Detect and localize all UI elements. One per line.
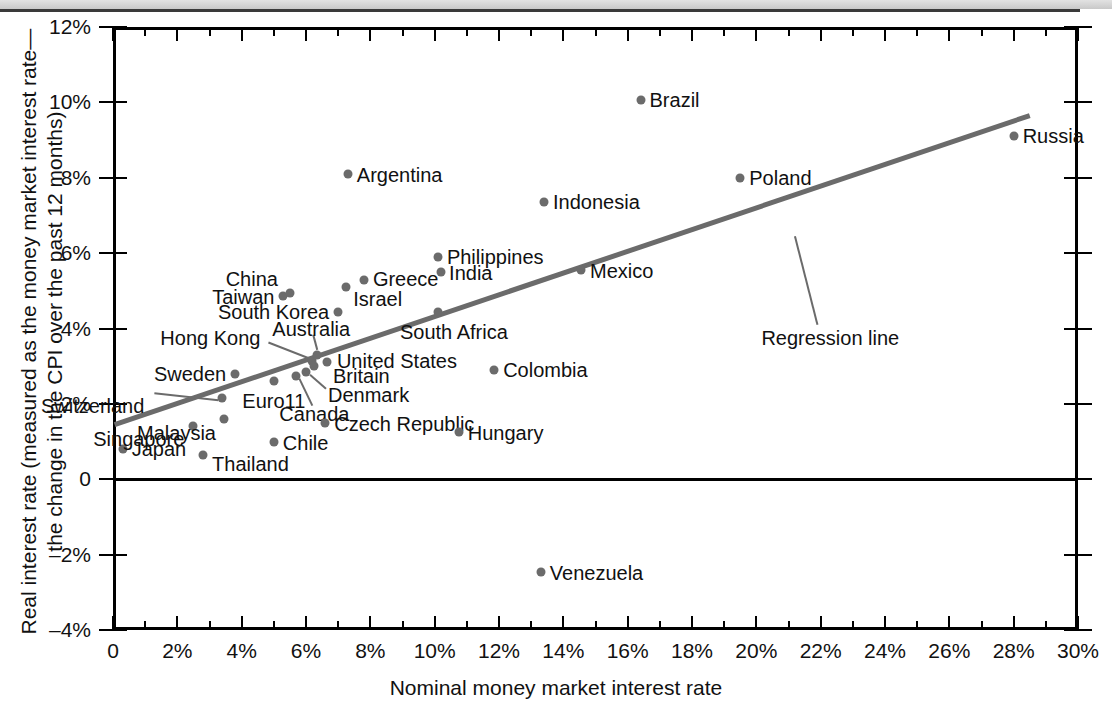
x-tick: [530, 27, 532, 36]
x-tick: [884, 27, 886, 41]
y-tick: [99, 252, 127, 254]
x-tick: [337, 27, 339, 36]
x-tick: [466, 27, 468, 36]
x-tick-label: 2%: [162, 639, 192, 663]
x-tick: [498, 27, 500, 41]
data-point[interactable]: [321, 418, 330, 427]
x-tick: [627, 27, 629, 41]
data-point[interactable]: [736, 173, 745, 182]
point-label: Chile: [283, 431, 329, 454]
data-point[interactable]: [313, 350, 322, 359]
data-point[interactable]: [219, 414, 228, 423]
x-tick: [852, 621, 854, 630]
x-tick: [369, 616, 371, 630]
data-point[interactable]: [433, 307, 442, 316]
data-point[interactable]: [536, 567, 545, 576]
data-point[interactable]: [1009, 132, 1018, 141]
x-tick: [916, 27, 918, 36]
x-tick: [562, 616, 564, 630]
data-point[interactable]: [285, 288, 294, 297]
data-point[interactable]: [342, 283, 351, 292]
x-tick: [369, 27, 371, 41]
x-tick-label: 18%: [671, 639, 713, 663]
x-tick-label: 14%: [542, 639, 584, 663]
data-point[interactable]: [292, 371, 301, 380]
y-axis-title: Real interest rate (measured as the mone…: [16, 22, 67, 642]
data-point[interactable]: [490, 365, 499, 374]
x-tick-label: 8%: [355, 639, 385, 663]
point-label: Israel: [353, 288, 402, 311]
x-tick: [1077, 616, 1079, 630]
y-tick: [99, 177, 127, 179]
x-tick: [144, 621, 146, 630]
x-tick-label: 6%: [291, 639, 321, 663]
point-label: Hong Kong: [160, 326, 260, 349]
data-point[interactable]: [269, 437, 278, 446]
x-tick-label: 24%: [864, 639, 906, 663]
x-tick: [691, 616, 693, 630]
data-point[interactable]: [302, 367, 311, 376]
y-tick: [1064, 252, 1092, 254]
data-point[interactable]: [437, 267, 446, 276]
data-point[interactable]: [636, 96, 645, 105]
x-tick: [948, 27, 950, 41]
point-label: Hungary: [468, 422, 544, 445]
point-label: Colombia: [503, 358, 587, 381]
y-tick: [1064, 26, 1092, 28]
data-point[interactable]: [199, 450, 208, 459]
data-point[interactable]: [343, 169, 352, 178]
x-tick-label: 26%: [928, 639, 970, 663]
y-tick: [99, 26, 127, 28]
x-tick: [402, 621, 404, 630]
data-point[interactable]: [334, 307, 343, 316]
data-point[interactable]: [218, 394, 227, 403]
y-tick: [99, 101, 127, 103]
point-label: Malaysia: [137, 421, 216, 444]
x-tick-label: 30%: [1057, 639, 1099, 663]
data-point[interactable]: [269, 377, 278, 386]
point-label: South Africa: [400, 320, 508, 343]
x-tick: [659, 621, 661, 630]
x-tick-label: 0: [107, 639, 119, 663]
x-tick-label: 16%: [607, 639, 649, 663]
x-tick: [209, 27, 211, 36]
data-point[interactable]: [310, 362, 319, 371]
x-tick: [820, 27, 822, 41]
x-tick: [884, 616, 886, 630]
x-tick: [1045, 27, 1047, 36]
x-tick-label: 22%: [800, 639, 842, 663]
x-tick-label: 4%: [226, 639, 256, 663]
data-point[interactable]: [322, 358, 331, 367]
x-tick: [498, 616, 500, 630]
x-tick: [112, 27, 114, 41]
y-tick: [99, 554, 127, 556]
x-tick: [1077, 27, 1079, 41]
zero-baseline: [113, 478, 1078, 481]
x-tick: [755, 616, 757, 630]
point-label: Venezuela: [550, 561, 643, 584]
x-tick: [788, 621, 790, 630]
data-point[interactable]: [577, 266, 586, 275]
x-tick: [691, 27, 693, 41]
x-tick: [305, 616, 307, 630]
x-tick: [755, 27, 757, 41]
y-tick: [1064, 328, 1092, 330]
x-tick: [530, 621, 532, 630]
x-tick: [595, 621, 597, 630]
data-point[interactable]: [454, 428, 463, 437]
x-tick: [1045, 621, 1047, 630]
point-label: Sweden: [154, 362, 226, 385]
x-tick: [562, 27, 564, 41]
y-tick: [1064, 478, 1092, 480]
regression-line-label: Regression line: [761, 326, 899, 349]
point-label: Greece: [373, 267, 439, 290]
data-point[interactable]: [540, 198, 549, 207]
data-point[interactable]: [433, 252, 442, 261]
y-tick: [1064, 403, 1092, 405]
data-point[interactable]: [359, 275, 368, 284]
point-label: Indonesia: [553, 191, 640, 214]
data-point[interactable]: [231, 369, 240, 378]
x-tick: [466, 621, 468, 630]
x-tick: [659, 27, 661, 36]
x-tick-label: 28%: [993, 639, 1035, 663]
